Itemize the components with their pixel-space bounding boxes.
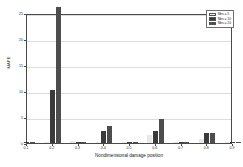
x-tick-label: 0.7 [178, 146, 183, 150]
plot-area [26, 14, 232, 144]
y-tick-label: 20 [19, 38, 23, 42]
x-tick-mark [181, 144, 182, 146]
bar [179, 142, 184, 143]
bar [56, 7, 61, 143]
legend-swatch [209, 13, 216, 16]
bar [24, 142, 29, 143]
bar [101, 131, 106, 143]
bar [147, 135, 152, 143]
chart-figure: MAPE 0510152025 0.10.20.30.40.50.60.70.8… [0, 0, 243, 167]
x-tick-mark [206, 144, 207, 146]
x-tick-mark [232, 144, 233, 146]
bar [122, 142, 127, 143]
bar [210, 133, 215, 143]
y-tick-label: 25 [19, 12, 23, 16]
bar [133, 142, 138, 143]
y-tick-label: 10 [19, 90, 23, 94]
x-tick-label: 0.1 [24, 146, 29, 150]
x-tick-label: 0.9 [230, 146, 235, 150]
bar [236, 142, 241, 143]
bar [199, 139, 204, 143]
x-tick-mark [78, 144, 79, 146]
bar [204, 133, 209, 143]
x-tick-mark [103, 144, 104, 146]
x-tick-label: 0.6 [152, 146, 157, 150]
bar [76, 142, 81, 143]
x-tick-label: 0.8 [204, 146, 209, 150]
bar [96, 142, 101, 143]
x-axis-title: Nondimensional damage position [26, 153, 232, 158]
y-tick-label: 5 [21, 116, 23, 120]
bar [44, 142, 49, 143]
legend-swatch [209, 22, 216, 25]
x-tick-label: 0.3 [75, 146, 80, 150]
bar [81, 142, 86, 143]
bar [159, 119, 164, 143]
legend-item[interactable]: Nbs = 20 [209, 21, 231, 26]
bar [30, 142, 35, 143]
chart-legend: Nbs = 5Nbs = 10Nbs = 20 [206, 10, 234, 28]
bar [153, 131, 158, 143]
y-tick-label: 15 [19, 64, 23, 68]
y-axis-ticks: 0510152025 [0, 14, 26, 144]
x-tick-label: 0.4 [101, 146, 106, 150]
bar [225, 142, 230, 143]
x-tick-label: 0.5 [127, 146, 132, 150]
bar [70, 141, 75, 143]
x-tick-mark [155, 144, 156, 146]
bar [184, 142, 189, 143]
legend-label: Nbs = 20 [218, 21, 231, 26]
bar [107, 126, 112, 143]
legend-swatch [209, 17, 216, 20]
x-tick-mark [129, 144, 130, 146]
bar [127, 142, 132, 143]
x-tick-mark [26, 144, 27, 146]
x-tick-mark [52, 144, 53, 146]
bar [50, 90, 55, 143]
bar [230, 142, 235, 143]
bar-series-container [27, 15, 231, 143]
bar [19, 142, 24, 143]
x-tick-label: 0.2 [49, 146, 54, 150]
bar [173, 142, 178, 143]
